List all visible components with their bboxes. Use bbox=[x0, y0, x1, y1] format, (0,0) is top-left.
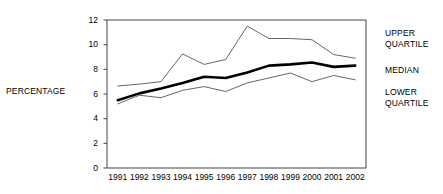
x-tick-label: 1991 bbox=[106, 172, 130, 182]
x-tick-label: 2002 bbox=[343, 172, 367, 182]
legend-upper-line2: QUARTILE bbox=[385, 39, 429, 50]
x-tick-label: 1998 bbox=[257, 172, 281, 182]
y-axis-title: PERCENTAGE bbox=[6, 86, 65, 96]
x-tick-label: 1999 bbox=[278, 172, 302, 182]
y-tick-label: 10 bbox=[78, 39, 98, 49]
legend-item-median: MEDIAN bbox=[385, 65, 419, 76]
chart-series-group bbox=[118, 26, 355, 104]
quartile-percentage-chart: PERCENTAGE 024681012 1991199219931994199… bbox=[0, 0, 443, 194]
series-line-upper-quartile bbox=[118, 26, 355, 86]
x-tick-label: 1997 bbox=[235, 172, 259, 182]
y-tick-label: 0 bbox=[78, 163, 98, 173]
y-tick-marks bbox=[104, 20, 108, 168]
x-tick-label: 1993 bbox=[149, 172, 173, 182]
series-line-median bbox=[118, 63, 355, 101]
legend-median-line1: MEDIAN bbox=[385, 65, 419, 76]
chart-plot-area bbox=[0, 0, 443, 194]
y-tick-label: 12 bbox=[78, 15, 98, 25]
legend-upper-line1: UPPER bbox=[385, 28, 429, 39]
x-tick-label: 1996 bbox=[214, 172, 238, 182]
series-line-lower-quartile bbox=[118, 73, 355, 104]
y-tick-label: 2 bbox=[78, 138, 98, 148]
legend-item-upper-quartile: UPPER QUARTILE bbox=[385, 28, 429, 49]
legend-item-lower-quartile: LOWER QUARTILE bbox=[385, 87, 429, 108]
legend-lower-line2: QUARTILE bbox=[385, 98, 429, 109]
x-tick-label: 1994 bbox=[171, 172, 195, 182]
x-tick-label: 1992 bbox=[127, 172, 151, 182]
x-tick-label: 2000 bbox=[300, 172, 324, 182]
x-tick-label: 1995 bbox=[192, 172, 216, 182]
x-tick-label: 2001 bbox=[322, 172, 346, 182]
legend-lower-line1: LOWER bbox=[385, 87, 429, 98]
y-tick-label: 4 bbox=[78, 113, 98, 123]
y-tick-label: 6 bbox=[78, 89, 98, 99]
y-tick-label: 8 bbox=[78, 64, 98, 74]
